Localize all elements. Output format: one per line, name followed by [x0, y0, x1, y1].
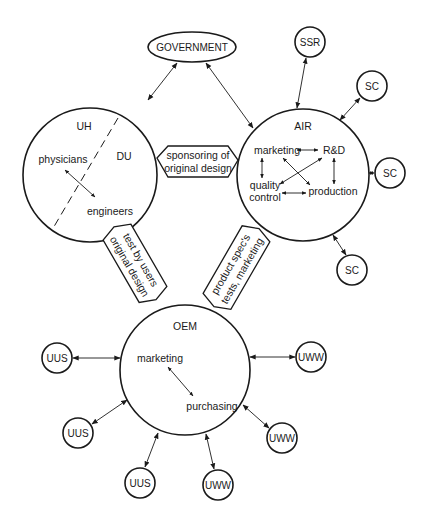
- ssr-node: SSR: [295, 27, 325, 57]
- government-node: GOVERNMENT: [148, 32, 236, 62]
- uww-label-3: UWW: [298, 352, 325, 363]
- engineers-label: engineers: [87, 205, 133, 217]
- edge-uus2-oem: [92, 400, 127, 424]
- sc-label-1: SC: [365, 81, 379, 92]
- edge-oem-marketing-purchasing: [168, 367, 193, 396]
- edge-physicians-engineers: [65, 170, 95, 197]
- organization-diagram: GOVERNMENT UH DU physicians engineers AI…: [0, 0, 423, 527]
- edge-marketing-production: [283, 158, 310, 185]
- edge-government-uh: [148, 63, 177, 100]
- uus-label-1: UUS: [46, 353, 67, 364]
- uh-label: UH: [76, 120, 91, 132]
- uww-node-1: UWW: [203, 470, 233, 500]
- uus-label-3: UUS: [129, 478, 150, 489]
- air-control-label: control: [249, 191, 281, 203]
- air-quality-label: quality: [250, 179, 281, 191]
- sponsoring-line-2: original design: [164, 162, 232, 174]
- uww-node-3: UWW: [296, 342, 326, 372]
- edge-ssr-air: [297, 58, 306, 108]
- edge-uww1-oem: [206, 434, 214, 469]
- uus-label-2: UUS: [67, 428, 88, 439]
- sponsoring-connector: sponsoring of original design: [157, 146, 238, 177]
- uus-node-1: UUS: [42, 343, 72, 373]
- sc-node-2: SC: [375, 158, 405, 188]
- sc-label-2: SC: [383, 168, 397, 179]
- uww-node-2: UWW: [267, 423, 297, 453]
- sc-node-3: SC: [337, 255, 367, 285]
- edge-sc3-air: [333, 235, 346, 255]
- physicians-label: physicians: [38, 153, 87, 165]
- government-label: GOVERNMENT: [156, 42, 228, 53]
- uus-node-3: UUS: [125, 468, 155, 498]
- oem-purchasing-label: purchasing: [186, 400, 238, 412]
- product-spec-connector: product spec's tests, marketing: [200, 221, 273, 315]
- air-marketing-label: marketing: [254, 144, 300, 156]
- oem-node: OEM marketing purchasing: [120, 305, 250, 435]
- ssr-label: SSR: [300, 37, 321, 48]
- uh-du-node: UH DU physicians engineers: [23, 108, 157, 242]
- sc-label-3: SC: [345, 265, 359, 276]
- sponsoring-line-1: sponsoring of: [166, 149, 229, 161]
- uus-node-2: UUS: [63, 418, 93, 448]
- edge-uww2-oem: [243, 405, 269, 428]
- edge-uus3-oem: [145, 433, 158, 467]
- air-rd-label: R&D: [323, 144, 346, 156]
- test-by-users-connector: test by users original design: [100, 219, 170, 308]
- air-production-label: production: [308, 185, 357, 197]
- oem-label: OEM: [173, 320, 197, 332]
- edge-sc1-air: [340, 98, 360, 120]
- edge-government-air: [206, 63, 253, 128]
- oem-marketing-label: marketing: [137, 352, 183, 364]
- uww-label-1: UWW: [205, 480, 232, 491]
- air-node: AIR marketing R&D quality control produc…: [237, 109, 369, 241]
- uww-label-2: UWW: [269, 433, 296, 444]
- du-label: DU: [116, 150, 131, 162]
- air-label: AIR: [294, 120, 312, 132]
- sc-node-1: SC: [357, 71, 387, 101]
